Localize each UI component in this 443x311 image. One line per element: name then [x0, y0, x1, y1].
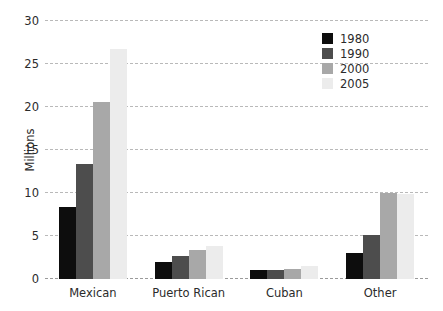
x-tick-label-mexican: Mexican: [69, 286, 116, 300]
legend: 1980199020002005: [322, 31, 369, 91]
legend-label-2005: 2005: [340, 77, 369, 91]
legend-swatch-icon-1980: [322, 33, 333, 44]
x-tick-label-puerto-rican: Puerto Rican: [152, 286, 225, 300]
x-tick-label-other: Other: [364, 286, 397, 300]
bar-1990-puerto-rican: [172, 256, 189, 279]
y-tick-label-25: 25: [24, 57, 39, 71]
legend-swatch-icon-2005: [322, 78, 333, 89]
bar-1990-mexican: [76, 164, 93, 279]
bar-2005-mexican: [110, 49, 127, 279]
bar-group: Puerto Rican: [141, 21, 237, 279]
legend-item-2005: 2005: [322, 76, 369, 91]
legend-label-1980: 1980: [340, 32, 369, 46]
y-tick-label-5: 5: [32, 229, 39, 243]
bar-groups: MexicanPuerto RicanCubanOther: [45, 21, 428, 279]
legend-label-1990: 1990: [340, 47, 369, 61]
bar-1980-other: [346, 253, 363, 279]
y-tick-label-10: 10: [24, 186, 39, 200]
legend-item-1990: 1990: [322, 46, 369, 61]
bar-2005-cuban: [301, 266, 318, 279]
bar-2000-mexican: [93, 102, 110, 279]
bar-1980-mexican: [59, 207, 76, 279]
x-tick-label-cuban: Cuban: [266, 286, 303, 300]
bar-chart: Millions 051015202530 MexicanPuerto Rica…: [0, 0, 443, 311]
bar-2000-other: [380, 193, 397, 279]
y-tick-label-30: 30: [24, 14, 39, 28]
bar-1980-puerto-rican: [155, 262, 172, 279]
bar-group: Mexican: [45, 21, 141, 279]
bar-2005-other: [397, 194, 414, 279]
y-tick-label-15: 15: [24, 143, 39, 157]
bar-group: Cuban: [237, 21, 333, 279]
y-tick-label-20: 20: [24, 100, 39, 114]
bar-1980-cuban: [250, 270, 267, 279]
legend-item-2000: 2000: [322, 61, 369, 76]
plot-area: 051015202530 MexicanPuerto RicanCubanOth…: [45, 21, 428, 279]
bar-1990-other: [363, 235, 380, 279]
legend-swatch-icon-1990: [322, 48, 333, 59]
y-tick-label-0: 0: [32, 272, 39, 286]
legend-label-2000: 2000: [340, 62, 369, 76]
legend-item-1980: 1980: [322, 31, 369, 46]
bar-2000-puerto-rican: [189, 250, 206, 279]
bar-2005-puerto-rican: [206, 246, 223, 279]
bar-2000-cuban: [284, 269, 301, 279]
legend-swatch-icon-2000: [322, 63, 333, 74]
bar-1990-cuban: [267, 270, 284, 279]
